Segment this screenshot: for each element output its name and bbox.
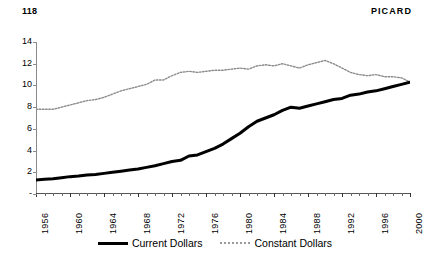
chart-legend: Current Dollars Constant Dollars (0, 233, 430, 253)
y-axis-tick-label: 6 (27, 124, 32, 133)
x-axis-tick-label: 1984 (278, 213, 288, 234)
y-axis-tick-label: 10 (22, 80, 32, 89)
y-axis-tick (33, 129, 37, 130)
series-line-current-dollars (36, 82, 410, 180)
x-axis-tick-label: 1956 (40, 213, 50, 234)
y-axis-tick (33, 194, 37, 195)
y-axis-tick (33, 64, 37, 65)
x-axis-tick-label: 1968 (142, 213, 152, 234)
page-number: 118 (22, 6, 37, 16)
y-axis-tick-label: 4 (27, 146, 32, 155)
series-canvas (36, 42, 410, 194)
y-axis-tick (33, 107, 37, 108)
x-axis-tick-label: 1988 (312, 213, 322, 234)
y-axis-tick (33, 172, 37, 173)
figure-page: 118 PICARD -2468101214 19561960196419681… (0, 0, 430, 262)
x-axis-tick-label: 1996 (380, 213, 390, 234)
legend-label-current-dollars: Current Dollars (132, 238, 203, 249)
y-axis-tick-label: 8 (27, 102, 32, 111)
legend-label-constant-dollars: Constant Dollars (254, 238, 332, 249)
y-axis-tick (33, 85, 37, 86)
x-axis-tick-label: 1972 (176, 213, 186, 234)
legend-swatch-dotted-icon (220, 242, 250, 244)
x-axis-tick-label: 1964 (108, 213, 118, 234)
x-axis-tick-label: 2000 (414, 213, 424, 234)
x-axis-tick-label: 1992 (346, 213, 356, 234)
plot-area (36, 42, 410, 194)
x-axis-tick-label: 1976 (210, 213, 220, 234)
y-axis-tick-label: 12 (22, 59, 32, 68)
legend-entry-constant-dollars: Constant Dollars (220, 238, 332, 249)
y-axis-tick (33, 151, 37, 152)
y-axis-tick (33, 42, 37, 43)
running-head: 118 PICARD (0, 6, 430, 22)
x-axis-tick-label: 1980 (244, 213, 254, 234)
x-axis-tick-label: 1960 (74, 213, 84, 234)
y-axis-tick-label: 2 (27, 167, 32, 176)
y-axis-tick-label: 14 (22, 37, 32, 46)
legend-entry-current-dollars: Current Dollars (98, 238, 203, 249)
series-line-constant-dollars (36, 60, 410, 109)
y-axis-tick-label: - (29, 189, 32, 198)
y-axis-labels: -2468101214 (0, 42, 32, 194)
running-head-title: PICARD (371, 6, 412, 16)
x-axis-tick-major (410, 193, 411, 197)
line-chart: -2468101214 1956196019641968197219761980… (0, 30, 430, 262)
legend-swatch-solid-icon (98, 242, 128, 245)
